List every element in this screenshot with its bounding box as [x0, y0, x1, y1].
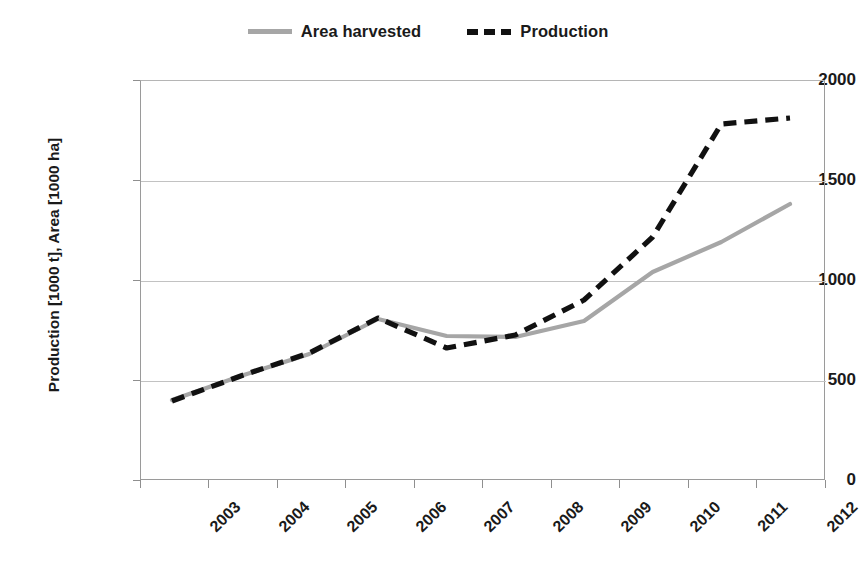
legend-entry-production: Production [467, 22, 608, 41]
x-tick-label-2009: 2009 [617, 498, 655, 536]
y-tick-mark-500 [133, 380, 140, 381]
x-tick-mark-2010 [619, 480, 620, 488]
x-tick-mark-2005 [277, 480, 278, 488]
legend-entry-area-harvested: Area harvested [248, 22, 422, 41]
legend-label-production: Production [520, 22, 608, 41]
x-tick-mark-2004 [208, 480, 209, 488]
x-tick-mark-2007 [414, 480, 415, 488]
y-tick-mark-2000 [133, 80, 140, 81]
x-tick-mark-2006 [345, 480, 346, 488]
dashed-black-line-icon [467, 29, 511, 35]
y-tick-mark-0 [133, 480, 140, 481]
x-tick-label-2004: 2004 [275, 498, 313, 536]
x-tick-mark-2003 [140, 480, 141, 488]
x-tick-mark-2011 [688, 480, 689, 488]
x-tick-label-2007: 2007 [480, 498, 518, 536]
x-tick-label-2011: 2011 [754, 498, 791, 535]
gridline-1500 [141, 181, 826, 182]
legend-label-area-harvested: Area harvested [301, 22, 422, 41]
x-tick-label-2012: 2012 [823, 498, 861, 536]
y-axis-title: Production [1000 t], Area [1000 ha] [36, 30, 72, 500]
solid-gray-line-icon [248, 29, 292, 34]
y-tick-mark-1500 [133, 180, 140, 181]
y-tick-mark-1000 [133, 280, 140, 281]
x-tick-mark-2012 [756, 480, 757, 488]
x-tick-label-2003: 2003 [206, 498, 244, 536]
x-tick-label-2005: 2005 [343, 498, 381, 536]
gridline-1000 [141, 281, 826, 282]
x-tick-mark-2009 [551, 480, 552, 488]
x-tick-mark-end [825, 480, 826, 488]
chart-legend: Area harvested Production [0, 22, 856, 41]
x-tick-mark-2008 [482, 480, 483, 488]
plot-area [140, 80, 825, 480]
x-tick-label-2010: 2010 [686, 498, 724, 536]
x-tick-label-2006: 2006 [412, 498, 450, 536]
x-tick-label-2008: 2008 [549, 498, 587, 536]
gridline-500 [141, 381, 826, 382]
